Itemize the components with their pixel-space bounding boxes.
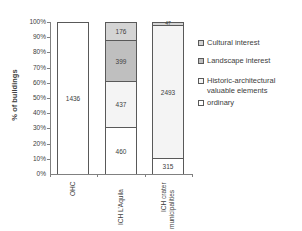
x-tick-label: ICH crater <box>160 182 168 212</box>
y-tick-label: 40% <box>18 109 46 117</box>
x-tick-mark <box>97 174 98 177</box>
legend-label-line: Historic-architectural <box>207 76 275 85</box>
legend-item-ordinary: ordinary <box>198 98 234 108</box>
bar-ich-crater: 47 2493 315 <box>152 22 184 175</box>
segment-value: 2493 <box>161 89 175 96</box>
y-tick-label: 100% <box>18 18 46 26</box>
y-tick-label: 80% <box>18 48 46 56</box>
segment-landscape: 399 <box>105 40 137 82</box>
y-tick-label: 0% <box>18 170 46 178</box>
legend-swatch <box>198 40 204 46</box>
segment-historic: 1436 <box>57 22 89 175</box>
segment-ordinary: 315 <box>152 158 184 175</box>
x-tick-mark <box>50 174 51 177</box>
x-axis <box>50 174 193 175</box>
segment-value: 399 <box>116 58 127 65</box>
segment-value: 315 <box>163 163 174 170</box>
y-tick-label: 70% <box>18 64 46 72</box>
x-tick-label: municipalities <box>168 190 176 229</box>
x-tick-mark <box>145 174 146 177</box>
y-tick-label: 60% <box>18 79 46 87</box>
segment-value: 1436 <box>66 95 80 102</box>
segment-value: 437 <box>116 101 127 108</box>
legend-item-historic: Historic-architectural valuable elements <box>198 76 275 96</box>
legend-item-landscape: Landscape interest <box>198 56 270 66</box>
bar-ich-laquila: 176 399 437 460 <box>105 22 137 175</box>
legend-label: Cultural interest <box>207 38 260 48</box>
segment-historic: 437 <box>105 81 137 128</box>
legend-label: Historic-architectural valuable elements <box>207 76 275 96</box>
legend-label: ordinary <box>207 98 234 108</box>
x-tick-mark <box>192 174 193 177</box>
segment-value: 460 <box>116 148 127 155</box>
x-tick-label: OHC <box>69 182 77 196</box>
y-axis <box>50 22 51 175</box>
legend-label-line: valuable elements <box>207 86 267 95</box>
legend-swatch <box>198 58 204 64</box>
bar-ohc: 1436 <box>57 22 89 175</box>
y-tick-label: 90% <box>18 33 46 41</box>
y-tick-label: 50% <box>18 94 46 102</box>
legend-item-cultural: Cultural interest <box>198 38 260 48</box>
y-tick-label: 30% <box>18 124 46 132</box>
segment-historic: 2493 <box>152 25 184 159</box>
y-tick-label: 20% <box>18 140 46 148</box>
legend-label: Landscape interest <box>207 56 270 66</box>
legend-swatch <box>198 78 204 84</box>
segment-value: 176 <box>116 28 127 35</box>
segment-cultural: 176 <box>105 22 137 41</box>
segment-ordinary: 460 <box>105 127 137 175</box>
legend-swatch <box>198 100 204 106</box>
stacked-bar-chart: % of buildings 100% 90% 80% 70% 60% 50% … <box>0 0 302 231</box>
x-tick-label: ICH L'Aquila <box>117 189 125 225</box>
y-tick-label: 10% <box>18 155 46 163</box>
